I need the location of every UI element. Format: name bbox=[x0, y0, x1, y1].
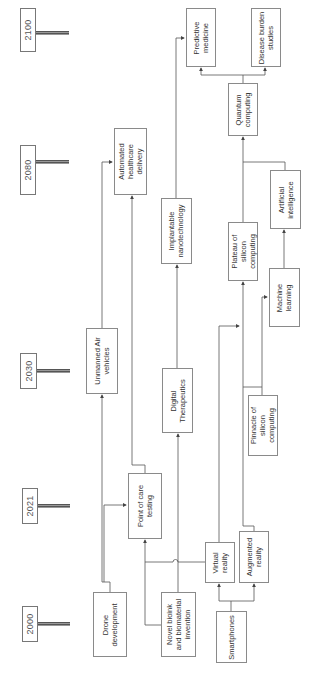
year-label: 2021 bbox=[25, 495, 35, 516]
year-tick-bar bbox=[38, 504, 70, 508]
edge-ai-to-quantum bbox=[243, 162, 285, 170]
year-marker-2021: 2021 bbox=[22, 488, 38, 524]
year-marker-2030: 2030 bbox=[20, 353, 37, 389]
edge-point-of-care-to-automated bbox=[132, 196, 145, 473]
node-machine-learning: Machine learning bbox=[269, 268, 300, 327]
year-label: 2080 bbox=[23, 159, 33, 180]
edge-vr-to-plateau bbox=[219, 326, 239, 542]
node-plateau-of-silicon-computing: Plateau of silicon computing bbox=[228, 222, 258, 281]
edge-vr-to-point-of-care bbox=[145, 560, 205, 563]
node-predictive-medicine: Predictive medicine bbox=[186, 8, 216, 67]
node-augmented-reality: Augmented reality bbox=[239, 531, 269, 583]
node-smartphones: Smartphones bbox=[216, 611, 247, 663]
edge-unmanned-to-automated bbox=[102, 162, 112, 328]
edge-pinnacle-to-plateau bbox=[243, 387, 262, 395]
year-label: 2000 bbox=[25, 613, 35, 634]
node-pinnacle-of-silicon-computing: Pinnacle of silicon computing bbox=[248, 395, 278, 456]
edge-quantum-to-outcomes bbox=[201, 68, 243, 83]
edge-smartphones-to-ar bbox=[231, 584, 254, 601]
edge-smartphones-to-vr-ar bbox=[219, 584, 231, 611]
node-virtual-reality: Virtual reality bbox=[205, 542, 235, 583]
year-label: 2100 bbox=[23, 19, 33, 40]
year-label: 2030 bbox=[24, 360, 34, 381]
node-novel-bioink: Novel bioink and biomaterial invention bbox=[161, 592, 196, 657]
node-drone-development: Drone development bbox=[93, 592, 127, 657]
node-point-of-care-testing: Point of care testing bbox=[128, 473, 162, 539]
node-unmanned-air-vehicles: Unmanned Air vehicles bbox=[86, 328, 118, 394]
edge-quantum-to-disease bbox=[243, 68, 265, 75]
year-tick-bar bbox=[36, 31, 69, 35]
timeline-diagram: 2100 2080 2030 2021 2000 Predictive medi… bbox=[0, 0, 311, 688]
node-quantum-computing: Quantum computing bbox=[228, 83, 258, 136]
edge-implantable-to-predictive bbox=[176, 38, 184, 198]
node-artificial-intelligence: Artificial intelligence bbox=[270, 170, 301, 229]
node-digital-therapeutics: Digital Therapeutics bbox=[162, 368, 193, 433]
node-disease-burden-studies: Disease burden studies bbox=[251, 8, 281, 67]
year-marker-2000: 2000 bbox=[22, 606, 38, 642]
edge-pinnacle-to-ml bbox=[262, 297, 267, 387]
year-tick-bar bbox=[38, 622, 70, 626]
year-tick-bar bbox=[36, 160, 69, 164]
year-marker-2100: 2100 bbox=[20, 8, 36, 52]
node-implantable-nanotechnology: Implantable nanotechnology bbox=[161, 198, 192, 264]
year-tick-bar bbox=[37, 369, 70, 373]
node-automated-healthcare-delivery: Automated healthcare delivery bbox=[114, 128, 147, 195]
connector-lines bbox=[0, 0, 311, 688]
edge-bioink-to-point-of-care bbox=[145, 540, 161, 625]
edge-drone-to-point-of-care bbox=[104, 505, 126, 592]
year-marker-2080: 2080 bbox=[20, 145, 36, 195]
